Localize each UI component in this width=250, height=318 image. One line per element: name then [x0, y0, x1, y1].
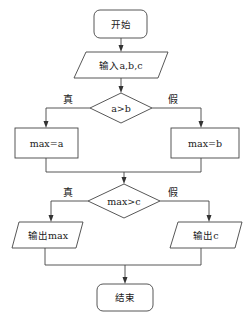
cond1-true-label: 真 — [63, 93, 73, 105]
input-node-label: 输入a,b,c — [99, 60, 142, 71]
arrowhead-icon — [199, 121, 204, 128]
edge-merge-2 — [45, 248, 201, 265]
arrowhead-icon — [44, 121, 49, 128]
cond2-node-label: max>c — [107, 196, 140, 207]
output-c-node-label: 输出c — [193, 230, 218, 241]
cond1-false-label: 假 — [168, 93, 178, 105]
edge-cond1-true — [46, 108, 90, 121]
arrowhead-icon — [207, 215, 212, 222]
edge-cond2-false — [160, 201, 209, 215]
start-node-label: 开始 — [111, 19, 131, 30]
flowchart-canvas: 开始 输入a,b,c a>b max=a max=b max>c 输出max 输… — [0, 0, 250, 318]
cond2-true-label: 真 — [63, 186, 73, 198]
arrowhead-icon — [119, 45, 124, 52]
assign-b-node-label: max=b — [188, 138, 222, 149]
output-max-node-label: 输出max — [28, 230, 69, 241]
assign-a-node-label: max=a — [30, 138, 64, 149]
arrowhead-icon — [49, 215, 54, 222]
arrowhead-icon — [123, 277, 128, 284]
arrowhead-icon — [122, 177, 127, 184]
edge-cond2-true — [51, 201, 88, 215]
arrowhead-icon — [119, 86, 124, 93]
edge-merge-1 — [46, 158, 201, 172]
cond2-false-label: 假 — [168, 186, 178, 198]
end-node-label: 结束 — [115, 292, 135, 303]
edge-cond1-false — [152, 108, 201, 121]
cond1-node-label: a>b — [111, 103, 131, 114]
